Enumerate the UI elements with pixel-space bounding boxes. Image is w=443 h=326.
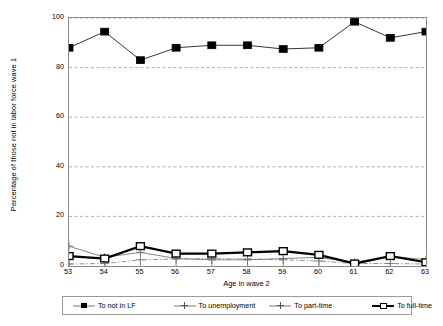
data-point-marker bbox=[244, 42, 252, 49]
data-point-marker bbox=[351, 18, 359, 25]
data-point-marker bbox=[172, 250, 180, 257]
data-point-marker bbox=[136, 256, 144, 264]
data-point-marker bbox=[279, 46, 287, 53]
x-axis-tick-label: 61 bbox=[342, 268, 366, 275]
data-point-marker bbox=[101, 28, 109, 35]
x-axis-tick-label: 55 bbox=[127, 268, 151, 275]
data-point-marker bbox=[279, 248, 287, 255]
x-axis-tick-label: 59 bbox=[270, 268, 294, 275]
data-point-marker bbox=[69, 253, 73, 260]
y-axis-tick-label: 40 bbox=[24, 162, 64, 169]
data-point-marker bbox=[172, 44, 180, 51]
x-axis-tick-label: 54 bbox=[92, 268, 116, 275]
x-axis-tick-label: 57 bbox=[199, 268, 223, 275]
legend-label: To part-time bbox=[294, 301, 332, 310]
data-point-marker bbox=[136, 243, 144, 250]
legend-label: To unemployment bbox=[199, 301, 256, 310]
plot-area bbox=[68, 17, 427, 267]
x-axis-tick-label: 63 bbox=[413, 268, 437, 275]
data-point-marker bbox=[351, 260, 359, 266]
x-axis-tick-label: 58 bbox=[235, 268, 259, 275]
x-axis-tick-label: 56 bbox=[163, 268, 187, 275]
legend-label: To full-time bbox=[397, 301, 432, 310]
legend-item[interactable]: To full-time bbox=[372, 297, 432, 314]
legend-label: To not in LF bbox=[98, 301, 136, 310]
legend-symbol-icon bbox=[269, 301, 291, 311]
data-point-marker bbox=[69, 260, 73, 266]
data-point-marker bbox=[386, 253, 394, 260]
data-point-marker bbox=[279, 256, 287, 264]
data-point-marker bbox=[69, 44, 73, 51]
y-axis-title: Percentage of those not in labor force w… bbox=[9, 10, 18, 260]
chart-canvas bbox=[69, 18, 426, 266]
x-axis-tick-label: 53 bbox=[56, 268, 80, 275]
chart-figure: Percentage of those not in labor force w… bbox=[0, 0, 443, 326]
data-point-marker bbox=[422, 259, 426, 266]
legend-symbol-icon bbox=[372, 301, 394, 311]
legend-item[interactable]: To part-time bbox=[269, 297, 332, 314]
x-axis-tick-label: 60 bbox=[306, 268, 330, 275]
y-axis-tick-label: 20 bbox=[24, 211, 64, 218]
y-axis-tick-labels: 020406080100 bbox=[18, 17, 64, 265]
data-point-marker bbox=[208, 42, 216, 49]
series-line bbox=[69, 22, 426, 60]
data-point-marker bbox=[315, 251, 323, 258]
data-point-marker bbox=[244, 249, 252, 256]
legend-item[interactable]: To unemployment bbox=[174, 297, 256, 314]
legend-item[interactable]: To not in LF bbox=[73, 297, 136, 314]
y-axis-tick-label: 80 bbox=[24, 63, 64, 70]
data-point-marker bbox=[315, 44, 323, 51]
data-point-marker bbox=[422, 28, 426, 35]
legend-symbol-icon bbox=[174, 301, 196, 311]
y-axis-tick-label: 100 bbox=[24, 13, 64, 20]
chart-legend: To not in LFTo unemploymentTo part-timeT… bbox=[62, 296, 412, 315]
y-axis-tick-label: 60 bbox=[24, 112, 64, 119]
x-axis-title: Age in wave 2 bbox=[68, 279, 425, 288]
legend-symbol-icon bbox=[73, 301, 95, 311]
data-point-marker bbox=[386, 34, 394, 41]
data-point-marker bbox=[69, 242, 73, 250]
data-point-marker bbox=[136, 57, 144, 64]
data-point-marker bbox=[386, 259, 394, 266]
data-point-marker bbox=[101, 255, 109, 262]
x-axis-tick-label: 62 bbox=[377, 268, 401, 275]
data-point-marker bbox=[208, 250, 216, 257]
